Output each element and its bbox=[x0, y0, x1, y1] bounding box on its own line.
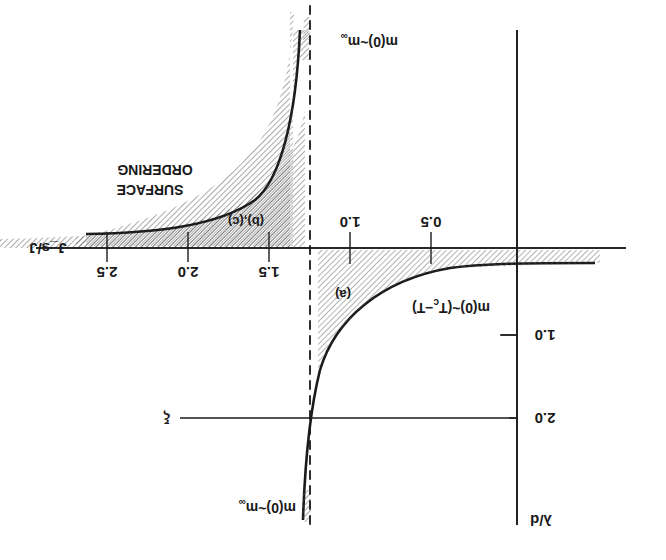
region-bc-label: (b),(c) bbox=[228, 214, 264, 229]
svg-text:m(0)~m∞: m(0)~m∞ bbox=[239, 497, 296, 516]
x-tick-label-1.5: 1.5 bbox=[259, 264, 280, 281]
x-tick-label-2.5: 2.5 bbox=[97, 264, 118, 281]
curve-a bbox=[66, 236, 517, 520]
svg-text:m(0)~(Tc−T): m(0)~(Tc−T) bbox=[412, 297, 490, 316]
m-inf-top-label: m(0)~m∞ bbox=[341, 31, 398, 50]
x-axis-label: J_s/J bbox=[29, 240, 67, 257]
m-inf-bottom-label: m(0)~m∞ bbox=[239, 497, 296, 516]
y-tick-label-2.0: 2.0 bbox=[535, 410, 556, 427]
y-tick-label-1.0: 1.0 bbox=[535, 327, 556, 344]
y-axis-label: λ/d bbox=[530, 512, 552, 529]
strip-top-hatch bbox=[300, 30, 309, 60]
x-tick-label-1.0: 1.0 bbox=[340, 214, 361, 231]
x-tick-label-2.0: 2.0 bbox=[178, 264, 199, 281]
critical-law-label: m(0)~(Tc−T) bbox=[412, 297, 490, 316]
x-tick-label-0.5: 0.5 bbox=[421, 214, 442, 231]
phase-diagram: 0.5 1.0 1.5 2.0 2.5 1.0 2.0 J_s/J λ/d ξ … bbox=[0, 0, 666, 560]
region-a-label: (a) bbox=[335, 287, 351, 302]
xi-label: ξ bbox=[163, 410, 170, 427]
svg-text:m(0)~m∞: m(0)~m∞ bbox=[341, 31, 398, 50]
surface-ordering-line1: SURFACE bbox=[117, 182, 184, 198]
surface-ordering-line2: ORDERING bbox=[117, 162, 193, 178]
